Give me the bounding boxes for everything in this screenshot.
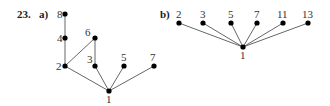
node-label: 3 [87,53,93,65]
node-label: 8 [57,8,63,20]
problem-number: 23. [17,8,31,20]
edge [109,66,154,91]
node-label: 4 [57,32,63,44]
node-dot-icon [280,20,285,25]
node-label: 5 [228,8,234,20]
edge [243,23,257,47]
node-dot-icon [62,63,67,68]
node-dot-icon [254,20,259,25]
node-dot-icon [176,20,181,25]
part-a-label: a) [39,8,49,21]
edge [243,23,283,47]
node-label: 1 [106,93,112,105]
node-dot-icon [62,11,67,16]
node-label: 7 [254,8,260,20]
node-dot-icon [151,63,156,68]
node-label: 5 [121,51,127,63]
node-dot-icon [228,20,233,25]
node-label: 1 [240,49,246,61]
node-dot-icon [200,20,205,25]
node-dot-icon [121,63,126,68]
node-label: 7 [150,51,156,63]
node-label: 2 [56,60,62,72]
node-dot-icon [92,63,97,68]
node-label: 2 [176,8,182,20]
edge [179,23,243,47]
part-b-label: b) [160,8,170,21]
edge [243,23,308,47]
hasse-diagrams: 23. a) b) 84623571 235711131 [0,0,330,106]
node-dot-icon [62,35,67,40]
node-dot-icon [92,35,97,40]
node-label: 11 [277,8,288,20]
node-label: 6 [85,26,91,38]
node-label: 3 [200,8,206,20]
diagram-part-a: 84623571 [56,8,157,105]
node-label: 13 [302,8,314,20]
node-dot-icon [305,20,310,25]
diagram-part-b: 235711131 [176,8,314,61]
